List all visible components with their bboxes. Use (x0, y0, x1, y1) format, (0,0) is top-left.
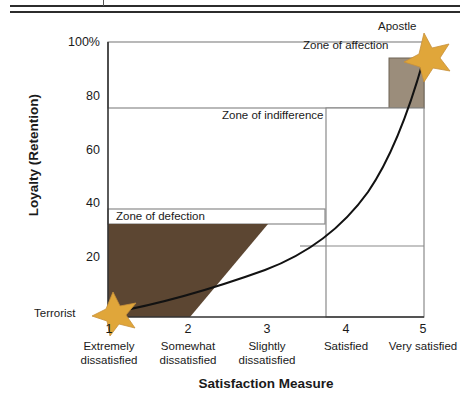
zone-defection-label: Zone of defection (116, 211, 205, 223)
zone-defection-fill (108, 224, 268, 317)
y-tick-label-40: 40 (48, 197, 100, 210)
x-tick-label-1: 1 (69, 323, 149, 336)
zone-affection-label: Zone of affection (303, 40, 388, 52)
x-tick-label-4: 4 (306, 323, 386, 336)
zone-indifference-label: Zone of indifference (222, 110, 323, 122)
x-axis-title: Satisfaction Measure (126, 377, 406, 391)
zone-indifference-box (326, 108, 424, 317)
x-tick-label-3: 3 (227, 323, 307, 336)
apostle-label: Apostle (378, 21, 416, 33)
zone-affection-outer-box (108, 42, 424, 108)
terrorist-label: Terrorist (34, 308, 76, 320)
y-axis-title: Loyalty (Retention) (26, 75, 42, 235)
y-tick-label-100: 100% (48, 36, 100, 49)
x-tick-caption-5: Very satisfied (377, 340, 468, 354)
y-tick-label-60: 60 (48, 144, 100, 157)
x-tick-label-2: 2 (148, 323, 228, 336)
y-tick-label-20: 20 (48, 251, 100, 264)
y-tick-label-80: 80 (48, 90, 100, 103)
x-tick-label-5: 5 (383, 323, 463, 336)
figure-container: 100% 80 60 40 20 Loyalty (Retention) 1 2… (0, 0, 468, 406)
